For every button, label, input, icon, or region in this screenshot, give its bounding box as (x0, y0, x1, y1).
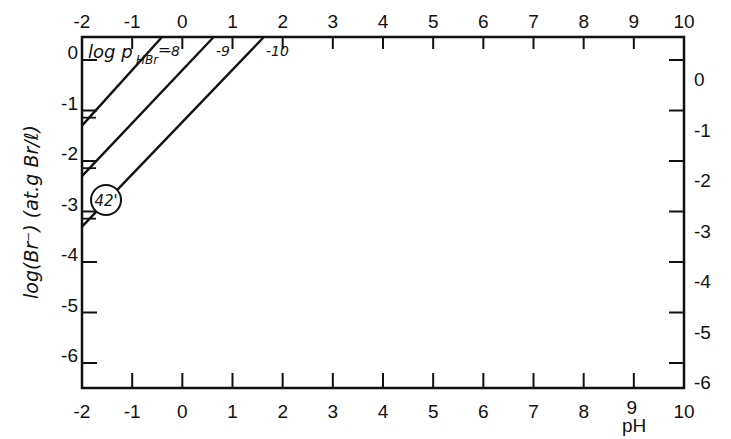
x-tick-label-bottom: 2 (277, 401, 288, 422)
y-tick-label-left: -2 (61, 143, 78, 164)
x-tick-label-bottom: 4 (378, 401, 389, 422)
y-tick-label-right: -3 (694, 221, 711, 242)
y-tick-label-left: -1 (61, 93, 78, 114)
x-tick-label-top: 8 (578, 11, 589, 32)
y-tick-label-right: -5 (694, 322, 711, 343)
x-tick-label-bottom: 1 (227, 401, 238, 422)
x-tick-label-top: 7 (528, 11, 539, 32)
x-tick-label-bottom: 6 (478, 401, 489, 422)
x-tick-label-top: 2 (277, 11, 288, 32)
y-tick-label-left: -6 (61, 345, 78, 366)
x-ticks-bottom: -2-1012345678910 (74, 373, 695, 422)
y-tick-label-left: 0 (67, 42, 78, 63)
x-tick-label-top: 4 (378, 11, 389, 32)
x-tick-label-top: 6 (478, 11, 489, 32)
y-tick-label-right: -2 (694, 170, 711, 191)
chart-canvas: -2-1012345678910 -2-1012345678910 0-1-2-… (0, 0, 731, 439)
line-label-10: -10 (266, 43, 289, 59)
y-tick-label-right: 0 (694, 69, 705, 90)
y-tick-label-right: -1 (694, 120, 711, 141)
annotation-label: 42' (94, 192, 117, 210)
x-tick-label-top: 0 (177, 11, 188, 32)
x-tick-label-top: 10 (673, 11, 694, 32)
legend-prefix: log p (88, 41, 133, 62)
x-tick-label-bottom: 0 (177, 401, 188, 422)
x-tick-label-bottom: -2 (74, 401, 91, 422)
plot-frame (82, 37, 684, 388)
y-tick-label-right: -4 (694, 271, 711, 292)
x-tick-label-top: 5 (428, 11, 439, 32)
x-tick-label-top: -2 (74, 11, 91, 32)
x-tick-label-bottom: 3 (328, 401, 339, 422)
y-axis-label: log(Br⁻) (at.g Br/ℓ) (20, 125, 42, 299)
y-ticks-right: 0-1-2-3-4-5-6 (669, 60, 711, 393)
x-tick-label-top: 1 (227, 11, 238, 32)
y-tick-label-right: -6 (694, 372, 711, 393)
legend-title: log p HBr = (88, 41, 171, 67)
x-tick-label-top: 9 (629, 11, 640, 32)
x-tick-label-top: 3 (328, 11, 339, 32)
y-tick-label-left: -5 (61, 295, 78, 316)
annotation-circle: 42' (91, 185, 121, 215)
y-tick-label-left: -3 (61, 194, 78, 215)
x-tick-label-bottom: 7 (528, 401, 539, 422)
line-label-8: -8 (166, 43, 180, 59)
x-tick-label-bottom: 5 (428, 401, 439, 422)
x-axis-label: pH (622, 415, 646, 436)
x-tick-label-bottom: 10 (673, 401, 694, 422)
x-tick-label-bottom: 8 (578, 401, 589, 422)
line-label-9: -9 (216, 43, 230, 59)
y-tick-label-left: -4 (61, 244, 78, 265)
legend-subscript: HBr (136, 53, 159, 67)
x-tick-label-top: -1 (124, 11, 141, 32)
x-tick-label-bottom: -1 (124, 401, 141, 422)
